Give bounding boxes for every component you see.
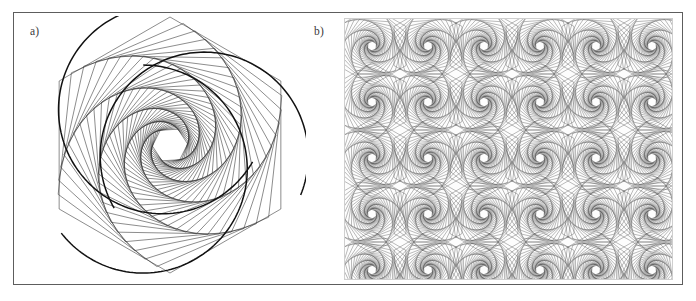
hexagon-whirl-svg [34, 16, 306, 274]
tiled-whirl-svg [344, 18, 673, 280]
figure-root: a) b) [0, 0, 696, 301]
panel-label-b: b) [314, 25, 324, 37]
panel-b-artwork [344, 18, 673, 280]
panel-a-artwork [34, 16, 306, 274]
